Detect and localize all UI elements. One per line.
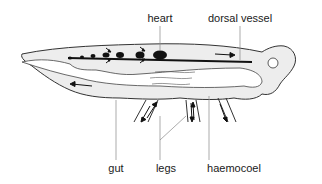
label-dorsal-vessel: dorsal vessel [208,12,272,24]
legs [134,98,236,122]
label-legs: legs [156,162,177,174]
eye [268,58,278,68]
insect-circulation-diagram: heart dorsal vessel gut legs haemocoel [0,0,322,184]
label-heart: heart [147,12,172,24]
label-gut: gut [108,162,123,174]
leg-arrows [141,102,227,122]
label-haemocoel: haemocoel [207,162,261,174]
